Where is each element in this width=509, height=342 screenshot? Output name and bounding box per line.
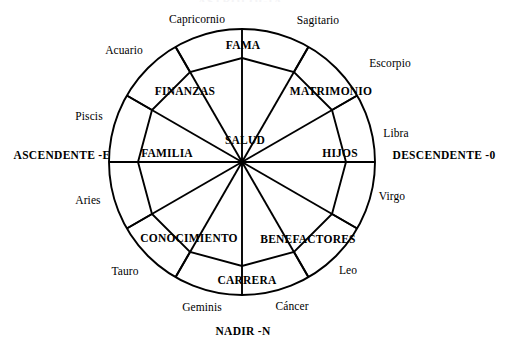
astrology-wheel-figure: ASTROLOGIA	[0, 0, 509, 342]
house-label-conocimiento: CONOCIMIENTO	[140, 233, 237, 245]
zodiac-label-virgo: Virgo	[379, 191, 405, 203]
axis-label-descendente: DESCENDENTE -0	[393, 150, 496, 162]
zodiac-label-escorpio: Escorpio	[369, 58, 411, 70]
center-point	[239, 159, 245, 165]
zodiac-label-geminis: Geminis	[182, 302, 222, 314]
zodiac-label-libra: Libra	[383, 128, 408, 140]
house-label-hijos: HIJOS	[322, 148, 358, 160]
axis-label-nadir: NADIR -N	[215, 326, 270, 338]
zodiac-label-piscis: Piscis	[75, 111, 102, 123]
house-label-fama: FAMA	[226, 40, 260, 52]
zodiac-label-cancer: Cáncer	[275, 301, 308, 313]
axis-label-ascendente: ASCENDENTE -E	[14, 150, 111, 162]
house-label-familia: FAMILIA	[141, 148, 193, 160]
zodiac-label-acuario: Acuario	[105, 45, 143, 57]
zodiac-label-aries: Aries	[75, 195, 100, 207]
house-label-salud: SALUD	[225, 135, 265, 147]
house-label-carrera: CARRERA	[218, 275, 277, 287]
zodiac-label-leo: Leo	[339, 265, 357, 277]
zodiac-label-sagitario: Sagitario	[297, 15, 339, 27]
zodiac-label-capricornio: Capricornio	[169, 14, 225, 26]
house-label-finanzas: FINANZAS	[155, 86, 215, 98]
zodiac-label-tauro: Tauro	[111, 266, 138, 278]
house-label-benefactores: BENEFACTORES	[260, 234, 355, 246]
house-label-matrimonio: MATRIMONIO	[290, 86, 372, 98]
